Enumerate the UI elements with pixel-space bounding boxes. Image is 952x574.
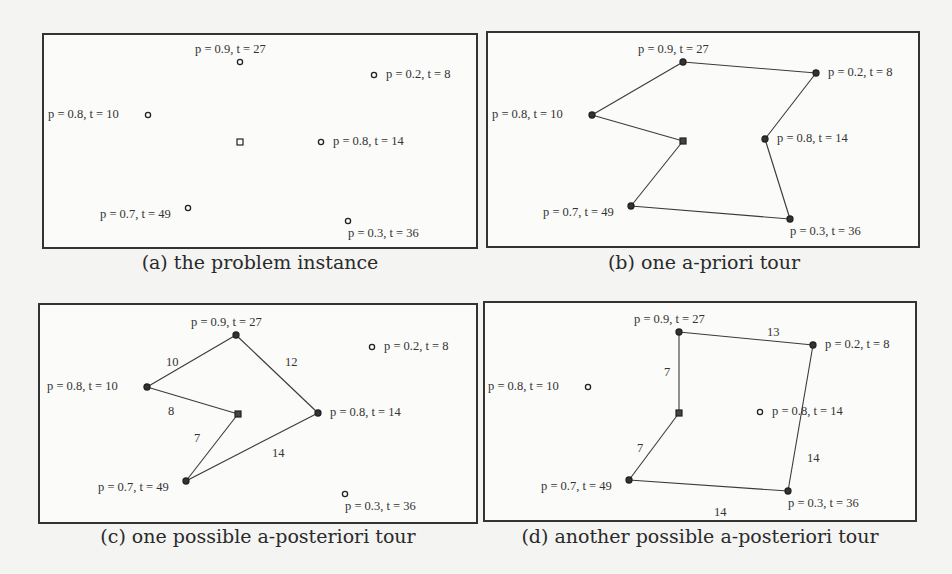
depot-square-icon [235,411,241,417]
node-label: p = 0.3, t = 36 [345,499,416,514]
depot-square-icon [676,410,682,416]
depot-square-icon [680,138,686,144]
depot-square-icon [237,139,243,145]
node-label: p = 0.8, t = 10 [48,107,119,122]
node-label: p = 0.2, t = 8 [825,337,889,352]
tour-edge [631,141,683,206]
node-label: p = 0.9, t = 27 [638,42,709,57]
tour-edge [765,139,790,219]
customer-node-icon [345,218,350,223]
node-label: p = 0.8, t = 14 [777,131,848,146]
node-label: p = 0.3, t = 36 [348,226,419,241]
customer-node-icon [342,491,347,496]
node-label: p = 0.8, t = 14 [772,404,843,419]
customer-node-icon [144,384,150,390]
customer-node-icon [318,139,323,144]
edge-weight-label: 14 [714,505,727,520]
customer-node-icon [315,410,321,416]
tour-edge [236,335,318,413]
tour-edge [631,206,790,219]
node-label: p = 0.7, t = 49 [541,479,612,494]
edge-weight-label: 7 [637,441,643,456]
edge-weight-label: 14 [807,451,820,466]
edge-weight-label: 7 [664,365,670,380]
tour-edge [147,387,238,414]
caption-d: (d) another possible a-posteriori tour [521,525,878,547]
node-label: p = 0.9, t = 27 [191,315,262,330]
node-label: p = 0.7, t = 49 [100,207,171,222]
customer-node-icon [237,59,242,64]
customer-node-icon [628,203,634,209]
edge-weight-label: 10 [166,355,179,370]
node-label: p = 0.8, t = 10 [488,379,559,394]
tour-edge [679,332,813,345]
edge-weight-label: 14 [272,446,285,461]
node-label: p = 0.8, t = 10 [47,379,118,394]
customer-node-icon [233,332,239,338]
node-label: p = 0.3, t = 36 [790,224,861,239]
tour-edge [765,73,816,139]
customer-node-icon [680,59,686,65]
customer-node-icon [183,478,189,484]
node-label: p = 0.2, t = 8 [386,67,450,82]
tour-edge [629,480,788,491]
customer-node-icon [785,488,791,494]
customer-node-icon [762,136,768,142]
caption-b: (b) one a-priori tour [608,251,800,273]
node-label: p = 0.7, t = 49 [98,480,169,495]
customer-node-icon [371,72,376,77]
node-label: p = 0.8, t = 10 [492,107,563,122]
node-label: p = 0.2, t = 8 [828,65,892,80]
node-label: p = 0.7, t = 49 [543,205,614,220]
edge-weight-label: 7 [194,431,200,446]
customer-node-icon [676,329,682,335]
customer-node-icon [810,342,816,348]
customer-node-icon [626,477,632,483]
edge-weight-label: 8 [168,404,174,419]
customer-node-icon [813,70,819,76]
customer-node-icon [185,205,190,210]
customer-node-icon [585,384,590,389]
node-label: p = 0.3, t = 36 [788,496,859,511]
node-label: p = 0.8, t = 14 [333,134,404,149]
edge-weight-label: 12 [285,355,298,370]
node-label: p = 0.9, t = 27 [195,42,266,57]
edge-weight-label: 13 [767,325,780,340]
customer-node-icon [369,344,374,349]
caption-c: (c) one possible a-posteriori tour [100,525,415,547]
node-label: p = 0.8, t = 14 [330,405,401,420]
node-label: p = 0.2, t = 8 [384,339,448,354]
customer-node-icon [589,112,595,118]
customer-node-icon [787,216,793,222]
node-label: p = 0.9, t = 27 [634,312,705,327]
tour-edge [592,115,683,141]
tour-edge [186,413,318,481]
customer-node-icon [757,409,762,414]
tour-edge [683,62,816,73]
tour-edge [592,62,683,115]
customer-node-icon [145,112,150,117]
caption-a: (a) the problem instance [142,251,379,273]
tour-edge [147,335,236,387]
tour-edge [186,414,238,481]
